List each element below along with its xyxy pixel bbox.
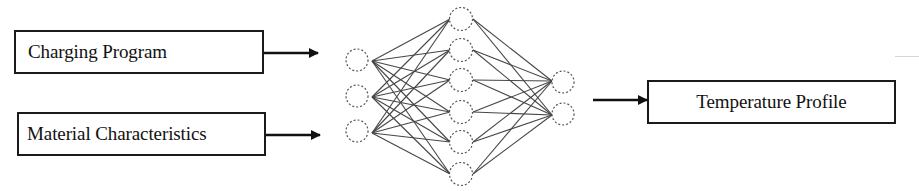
- hidden-layer: [450, 8, 473, 186]
- input-node: [346, 49, 368, 71]
- edges-hidden-output: [473, 19, 552, 174]
- output-node: [552, 71, 574, 93]
- input-box-material-characteristics: Material Characteristics: [17, 112, 266, 156]
- hidden-node: [450, 69, 473, 92]
- input-layer: [346, 49, 368, 142]
- input-label: Charging Program: [28, 41, 167, 63]
- hidden-node: [450, 8, 473, 31]
- input-box-charging-program: Charging Program: [14, 30, 264, 74]
- input-label: Material Characteristics: [27, 123, 207, 145]
- input-node: [346, 120, 368, 142]
- scan-artifact-line: [895, 56, 919, 57]
- hidden-node: [450, 39, 473, 62]
- output-node: [552, 103, 574, 125]
- hidden-node: [450, 163, 473, 186]
- output-box-temperature-profile: Temperature Profile: [647, 80, 896, 124]
- hidden-node: [450, 101, 473, 124]
- diagram-canvas: Charging Program Material Characteristic…: [0, 0, 919, 191]
- hidden-node: [450, 131, 473, 154]
- output-label: Temperature Profile: [696, 91, 846, 113]
- input-node: [346, 85, 368, 107]
- output-layer: [552, 71, 574, 125]
- edges-input-hidden: [372, 19, 450, 174]
